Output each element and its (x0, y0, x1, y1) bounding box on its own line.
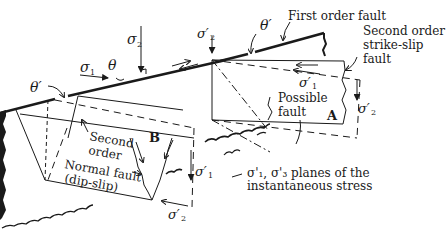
theta-angle: θ (108, 57, 124, 80)
svg-text:σ'₁, σ'₃ planes of the: σ'₁, σ'₃ planes of the (247, 166, 370, 180)
block-b-label: B (149, 130, 160, 145)
sigma1-label: σ (80, 59, 90, 75)
svg-text:1: 1 (312, 82, 317, 91)
svg-text:instantaneous stress: instantaneous stress (247, 179, 372, 193)
possible-fault-label: Possible fault (278, 91, 328, 119)
svg-text:Second order: Second order (363, 24, 445, 38)
svg-text:σ′: σ′ (195, 164, 207, 179)
sigma2-label: σ (127, 31, 137, 47)
sigma1-prime-a-arrows: σ′ 1 (294, 65, 320, 91)
sigma2-prime-b-arrow: σ′ 2 (162, 201, 188, 223)
instantaneous-stress-caption: σ'₁, σ'₃ planes of the instantaneous str… (247, 166, 372, 193)
svg-text:1: 1 (208, 171, 213, 180)
svg-text:σ′: σ′ (358, 101, 370, 116)
strike-slip-fault-label: Second order strike-slip fault (346, 24, 445, 70)
svg-text:σ′: σ′ (197, 26, 209, 41)
normal-fault-label: Second order Normal fault (dip-slip) (63, 120, 142, 194)
svg-text:2: 2 (137, 40, 142, 49)
sigma2-prime-top-arrow: σ′ 2 (197, 26, 215, 53)
svg-text:fault: fault (278, 105, 306, 119)
svg-text:2: 2 (181, 214, 186, 223)
svg-text:First order fault: First order fault (288, 9, 386, 23)
theta-prime-left: θ′ (30, 79, 64, 97)
svg-text:σ′: σ′ (168, 207, 180, 222)
theta-label: θ (108, 57, 117, 73)
fault-diagram: σ 1 θ σ 2 σ′ 2 θ′ θ′ First order fault S… (0, 0, 447, 239)
svg-text:strike-slip: strike-slip (363, 38, 424, 52)
svg-text:2: 2 (371, 108, 376, 117)
svg-text:fault: fault (363, 52, 391, 66)
sigma2-arrow: σ 2 (127, 26, 146, 74)
sigma1-arrow: σ 1 (80, 59, 108, 78)
sigma1-prime-b-arrow: σ′ 1 (191, 150, 213, 180)
block-a-label: A (326, 108, 338, 123)
svg-text:σ′: σ′ (299, 75, 311, 90)
svg-text:Possible: Possible (278, 91, 328, 105)
svg-text:θ′: θ′ (260, 17, 272, 33)
left-block-edge (0, 110, 6, 220)
svg-text:1: 1 (90, 68, 95, 77)
svg-text:2: 2 (210, 33, 215, 42)
svg-text:θ′: θ′ (30, 79, 42, 95)
